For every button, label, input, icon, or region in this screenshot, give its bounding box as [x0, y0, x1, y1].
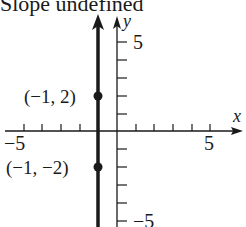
graph: x y −5 5 5 −5 (−1, 2) (−1, −2) — [0, 0, 246, 227]
y-tick-label-5: 5 — [133, 31, 143, 53]
y-tick-label-neg5: −5 — [133, 210, 154, 227]
y-axis-label: y — [121, 11, 131, 31]
y-axis — [113, 16, 127, 227]
vertical-line-series — [92, 14, 104, 227]
point-label-neg1-2: (−1, 2) — [24, 86, 76, 108]
x-tick-label-neg5: −5 — [4, 132, 25, 154]
point-neg1-2 — [94, 92, 103, 101]
point-label-neg1-neg2: (−1, −2) — [6, 157, 69, 179]
x-axis-label: x — [232, 106, 241, 126]
point-neg1-neg2 — [94, 163, 103, 172]
x-tick-label-5: 5 — [204, 132, 214, 154]
